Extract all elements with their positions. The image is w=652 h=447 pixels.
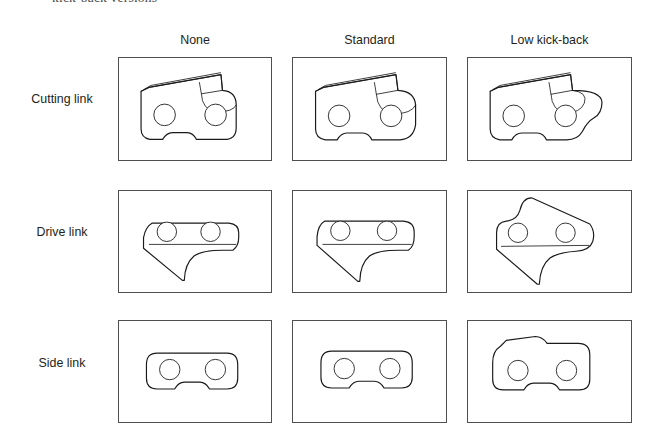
cutting-link-none-drawing	[119, 58, 271, 160]
chain-link-comparison-figure: kick-back versions None Standard Low kic…	[0, 0, 652, 447]
cell-cutting-link-low-kick-back	[467, 57, 632, 161]
cell-cutting-link-standard	[292, 57, 447, 161]
cell-drive-link-none	[118, 190, 272, 293]
column-header-low-kick-back: Low kick-back	[467, 31, 632, 49]
cell-cutting-link-none	[118, 57, 272, 161]
row-label-cutting-link: Cutting link	[14, 91, 110, 107]
cut-off-caption: kick-back versions	[0, 0, 652, 9]
cell-side-link-standard	[292, 320, 447, 423]
cell-drive-link-standard	[292, 190, 447, 293]
caption-text: kick-back versions	[52, 0, 157, 6]
drive-link-standard-drawing	[293, 191, 446, 292]
row-label-side-link: Side link	[14, 355, 110, 371]
cutting-link-standard-drawing	[293, 58, 446, 160]
side-link-standard-drawing	[293, 321, 446, 422]
cell-side-link-none	[118, 320, 272, 423]
drive-link-low-kick-back-drawing	[468, 191, 631, 292]
cutting-link-low-kick-back-drawing	[468, 58, 631, 160]
column-header-none: None	[118, 31, 272, 49]
side-link-low-kick-back-drawing	[468, 321, 631, 422]
drive-link-none-drawing	[119, 191, 271, 292]
column-header-standard: Standard	[292, 31, 447, 49]
side-link-none-drawing	[119, 321, 271, 422]
cell-drive-link-low-kick-back	[467, 190, 632, 293]
row-label-drive-link: Drive link	[14, 224, 110, 240]
cell-side-link-low-kick-back	[467, 320, 632, 423]
